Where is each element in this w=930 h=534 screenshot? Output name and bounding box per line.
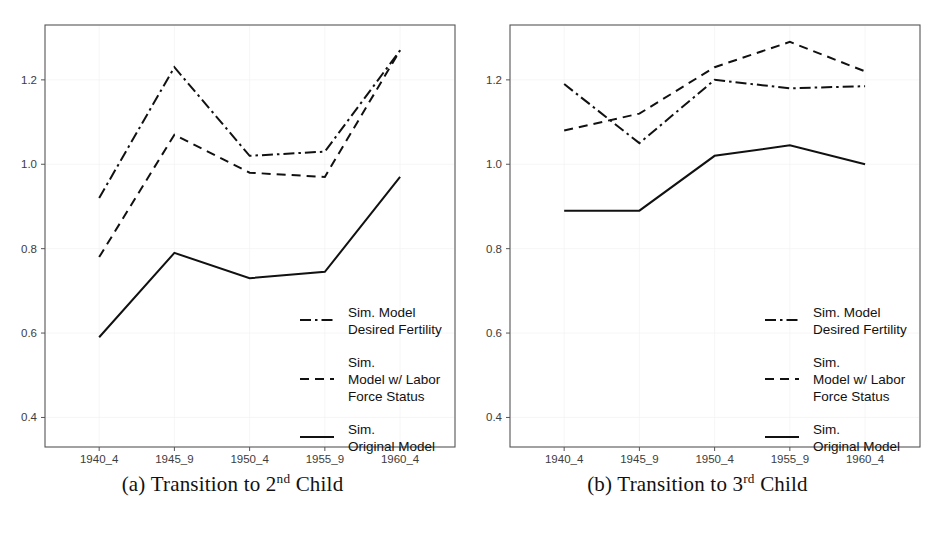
y-tick-label-a-1: 0.6 (21, 327, 37, 339)
caption-text-before-a: Transition to 2 (151, 472, 277, 496)
legend-label-a-1-1: Model w/ Labor (348, 372, 441, 387)
caption-ordinal-b: rd (743, 471, 754, 486)
legend-label-a-0-0: Sim. Model (348, 305, 416, 320)
caption-text-after-a: Child (296, 472, 344, 496)
y-tick-label-b-0: 0.4 (486, 411, 503, 423)
legend-a: Sim. ModelDesired FertilitySim.Model w/ … (300, 305, 442, 454)
panel-caption-b: (b) Transition to 3rd Child (465, 472, 930, 497)
y-axis-b: 0.40.60.81.01.2 (486, 74, 510, 424)
caption-text-before-b: Transition to 3 (617, 472, 743, 496)
x-tick-label-a-3: 1955_9 (306, 453, 344, 465)
y-axis-a: 0.40.60.81.01.2 (21, 74, 45, 424)
chart-panel-a: 0.40.60.81.01.2 1940_41945_91950_41955_9… (0, 0, 465, 534)
legend-label-b-1-0: Sim. (813, 355, 840, 370)
legend-label-a-0-1: Desired Fertility (348, 322, 442, 337)
x-tick-label-a-1: 1945_9 (155, 453, 193, 465)
legend-label-b-1-1: Model w/ Labor (813, 372, 906, 387)
panel-caption-a: (a) Transition to 2nd Child (0, 472, 465, 497)
y-tick-label-a-3: 1.0 (21, 158, 37, 170)
legend-label-a-1-0: Sim. (348, 355, 375, 370)
chart-svg-a: 0.40.60.81.01.2 1940_41945_91950_41955_9… (0, 0, 465, 534)
y-tick-label-a-0: 0.4 (21, 411, 38, 423)
x-tick-label-b-0: 1940_4 (545, 453, 584, 465)
x-tick-label-b-3: 1955_9 (771, 453, 809, 465)
legend-b: Sim. ModelDesired FertilitySim.Model w/ … (765, 305, 907, 454)
y-tick-label-b-3: 1.0 (486, 158, 502, 170)
y-tick-label-b-2: 0.8 (486, 243, 502, 255)
caption-label-a: (a) (122, 472, 146, 496)
legend-label-a-2-1: Original Model (348, 439, 435, 454)
y-tick-label-a-2: 0.8 (21, 243, 37, 255)
caption-ordinal-a: nd (277, 471, 291, 486)
legend-label-a-2-0: Sim. (348, 422, 375, 437)
legend-label-b-2-0: Sim. (813, 422, 840, 437)
legend-label-b-0-0: Sim. Model (813, 305, 881, 320)
legend-label-a-1-2: Force Status (348, 389, 425, 404)
legend-label-b-2-1: Original Model (813, 439, 900, 454)
y-tick-label-b-1: 0.6 (486, 327, 502, 339)
y-tick-label-a-4: 1.2 (21, 74, 37, 86)
x-tick-label-b-4: 1960_4 (846, 453, 885, 465)
x-tick-label-a-0: 1940_4 (80, 453, 119, 465)
caption-label-b: (b) (587, 472, 612, 496)
chart-panel-b: 0.40.60.81.01.2 1940_41945_91950_41955_9… (465, 0, 930, 534)
x-tick-label-b-2: 1950_4 (695, 453, 734, 465)
x-tick-label-a-2: 1950_4 (230, 453, 269, 465)
legend-label-b-1-2: Force Status (813, 389, 890, 404)
legend-label-b-0-1: Desired Fertility (813, 322, 907, 337)
x-tick-label-a-4: 1960_4 (381, 453, 420, 465)
x-tick-label-b-1: 1945_9 (620, 453, 658, 465)
caption-text-after-b: Child (760, 472, 808, 496)
figure-container: 0.40.60.81.01.2 1940_41945_91950_41955_9… (0, 0, 930, 534)
chart-svg-b: 0.40.60.81.01.2 1940_41945_91950_41955_9… (465, 0, 930, 534)
y-tick-label-b-4: 1.2 (486, 74, 502, 86)
